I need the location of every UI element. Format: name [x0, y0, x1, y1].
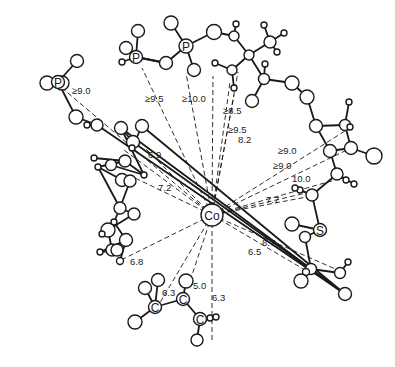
atom — [285, 217, 299, 231]
distance-line — [212, 76, 213, 215]
atom — [244, 50, 254, 60]
distance-labels: ≥9.0≥9.5≥10.0≥8.5≥9.58.2≥9.0≥9.010.07.78… — [72, 85, 311, 303]
atom — [97, 249, 103, 255]
element-label: P — [182, 40, 190, 54]
distance-label: 8.7 — [262, 237, 275, 248]
atom — [324, 145, 337, 158]
atom — [152, 274, 165, 287]
distance-label: 8.2 — [238, 134, 251, 145]
bonds — [47, 23, 374, 340]
atom — [343, 177, 349, 183]
atom — [111, 244, 123, 256]
atom — [345, 259, 351, 265]
atom — [292, 185, 298, 191]
atom — [191, 334, 203, 346]
atom — [264, 36, 276, 48]
atom — [339, 288, 352, 301]
atom — [207, 315, 213, 321]
atom — [366, 148, 382, 164]
atom — [114, 202, 126, 214]
distance-line — [142, 68, 212, 215]
atom — [117, 258, 124, 265]
atom — [300, 232, 311, 243]
atom: C — [194, 313, 207, 327]
distance-label: ≥9.0 — [278, 145, 296, 156]
distance-label: ≥9.0 — [72, 85, 90, 96]
atom — [179, 274, 193, 288]
distance-label: 6.9 — [148, 149, 161, 160]
atom — [106, 160, 117, 171]
atom: P — [179, 39, 193, 54]
atom — [71, 55, 84, 68]
element-label: C — [151, 301, 160, 315]
element-label: P — [54, 76, 62, 90]
atom: S — [314, 224, 327, 238]
atom — [331, 168, 343, 180]
atom: C — [149, 301, 162, 315]
element-label: C — [179, 293, 188, 307]
atom: P — [52, 76, 65, 90]
atom — [95, 164, 101, 170]
atom — [233, 21, 239, 27]
atom — [285, 76, 299, 90]
atom — [229, 31, 239, 41]
distance-label: 6.3 — [212, 292, 225, 303]
atom — [346, 99, 352, 105]
atom — [345, 142, 358, 155]
atom — [119, 59, 125, 65]
distance-label: 7.2 — [158, 182, 171, 193]
distance-label: 5.0 — [193, 280, 206, 291]
distance-label: 6.3 — [162, 287, 175, 298]
atom — [160, 57, 173, 70]
molecular-distance-diagram: PPPSCCC ≥9.0≥9.5≥10.0≥8.5≥9.58.2≥9.0≥9.0… — [0, 0, 395, 367]
atom — [227, 65, 237, 75]
atom — [213, 314, 219, 320]
atom — [91, 119, 103, 131]
distance-label: ≥9.0 — [273, 160, 291, 171]
atom — [262, 61, 268, 67]
element-label: C — [196, 313, 205, 327]
atom — [128, 208, 140, 220]
atom — [129, 145, 135, 151]
atom: C — [177, 293, 190, 307]
distance-label: 6.5 — [248, 246, 261, 257]
cobalt-atom: Co — [201, 204, 223, 226]
atom — [347, 124, 353, 130]
element-label: P — [132, 51, 140, 65]
atom — [139, 282, 152, 295]
atom — [69, 110, 83, 124]
atom — [120, 234, 133, 247]
atom — [259, 74, 270, 85]
atom — [351, 181, 357, 187]
atom — [274, 49, 280, 55]
atom — [119, 155, 131, 167]
atom — [188, 64, 201, 77]
atom — [120, 42, 133, 55]
distance-label: ≥8.5 — [223, 105, 241, 116]
atom — [246, 95, 259, 108]
distance-label: 6.8 — [130, 256, 143, 267]
atom — [300, 90, 314, 104]
distance-label: 10.0 — [292, 173, 311, 184]
distance-label: 7.7 — [266, 194, 279, 205]
distance-label: ≥9.5 — [145, 93, 163, 104]
atom — [306, 189, 318, 201]
distance-label: ≥10.0 — [182, 93, 206, 104]
atom — [281, 30, 287, 36]
cobalt-label: Co — [204, 209, 220, 223]
atom — [207, 25, 222, 40]
atom — [99, 231, 105, 237]
atom — [136, 120, 149, 133]
distance-lines — [62, 68, 349, 340]
atom — [164, 16, 178, 30]
atom — [335, 268, 346, 279]
element-label: S — [316, 224, 324, 238]
atom — [132, 25, 145, 38]
atom — [84, 122, 90, 128]
atom — [231, 85, 237, 91]
atom — [124, 175, 136, 187]
atom — [310, 120, 323, 133]
distance-line — [212, 82, 230, 215]
atom — [91, 155, 97, 161]
atom — [141, 172, 147, 178]
